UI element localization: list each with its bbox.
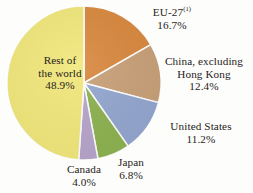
pie-chart-figure: EU-27(1) 16.7% China, excluding Hong Kon… [0, 0, 253, 193]
pie-label-canada-name: Canada [58, 163, 110, 176]
pie-label-canada-value: 4.0% [58, 176, 110, 189]
pie-label-china-name-line1: China, excluding [155, 55, 253, 68]
pie-label-eu27-name: EU-27(1) [133, 6, 211, 19]
pie-label-japan-value: 6.8% [108, 169, 154, 182]
pie-label-canada: Canada 4.0% [58, 163, 110, 188]
pie-label-china: China, excluding Hong Kong 12.4% [155, 55, 253, 93]
pie-label-eu27: EU-27(1) 16.7% [133, 6, 211, 31]
pie-label-united-states: United States 11.2% [155, 120, 247, 145]
pie-label-japan: Japan 6.8% [108, 156, 154, 181]
pie-label-rest-of-world: Rest of the world 48.9% [23, 54, 97, 92]
pie-label-rest-of-world-name-line2: the world [23, 67, 97, 80]
pie-label-japan-name: Japan [108, 156, 154, 169]
pie-label-eu27-value: 16.7% [133, 19, 211, 32]
pie-label-united-states-value: 11.2% [155, 133, 247, 146]
pie-label-china-name-line2: Hong Kong [155, 68, 253, 81]
pie-label-eu27-footnote: (1) [183, 5, 191, 12]
pie-label-rest-of-world-name-line1: Rest of [23, 54, 97, 67]
pie-label-rest-of-world-value: 48.9% [23, 79, 97, 92]
pie-label-united-states-name: United States [155, 120, 247, 133]
pie-label-china-value: 12.4% [155, 80, 253, 93]
